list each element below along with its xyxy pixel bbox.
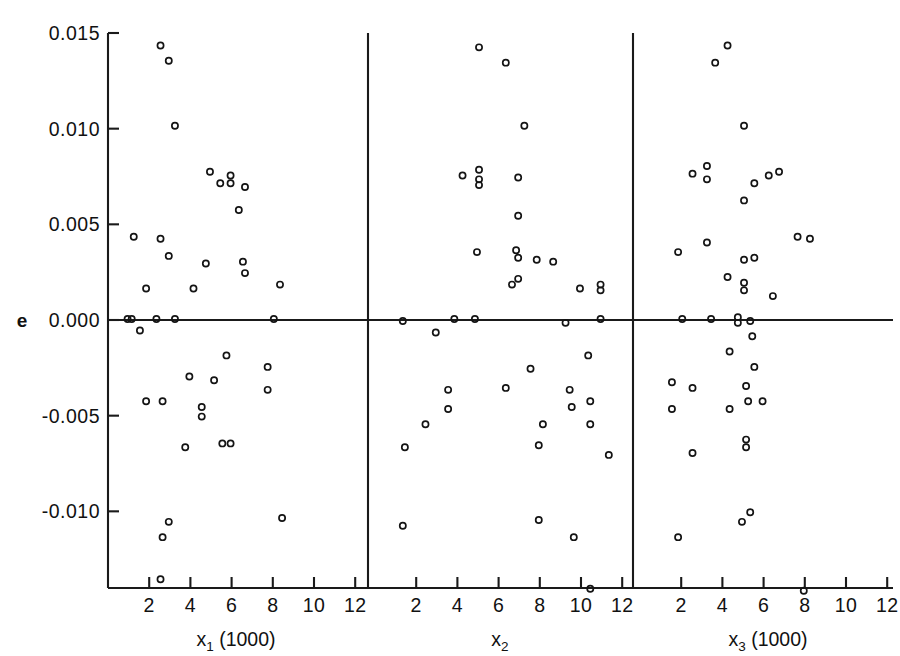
data-point: [445, 387, 451, 393]
data-point: [182, 444, 188, 450]
data-point: [741, 257, 747, 263]
data-point: [242, 184, 248, 190]
data-point: [739, 519, 745, 525]
data-point: [211, 377, 217, 383]
data-point: [577, 285, 583, 291]
data-point: [675, 249, 681, 255]
data-point: [606, 452, 612, 458]
data-point: [751, 364, 757, 370]
data-point: [540, 421, 546, 427]
x-tick-label: 8: [799, 594, 810, 616]
data-point: [669, 406, 675, 412]
data-point: [704, 163, 710, 169]
x-tick-label: 4: [185, 594, 196, 616]
y-axis-title: e: [17, 310, 28, 331]
x-tick-label: 12: [611, 594, 634, 616]
data-point: [585, 352, 591, 358]
x-tick-label: 2: [676, 594, 687, 616]
data-point: [166, 519, 172, 525]
x-tick-label: 8: [534, 594, 545, 616]
y-tick-label: 0.010: [49, 118, 100, 140]
data-point: [166, 253, 172, 259]
data-point: [219, 440, 225, 446]
data-point: [476, 44, 482, 50]
x-tick-label: 6: [226, 594, 237, 616]
data-point: [770, 293, 776, 299]
data-point: [476, 167, 482, 173]
data-point: [751, 180, 757, 186]
data-point: [745, 398, 751, 404]
data-point: [277, 282, 283, 288]
x-tick-label: 2: [411, 594, 422, 616]
data-point: [400, 523, 406, 529]
data-point: [503, 385, 509, 391]
data-point: [402, 444, 408, 450]
data-point: [536, 442, 542, 448]
x-axis: [108, 577, 893, 588]
y-tick-label: 0.015: [49, 22, 100, 44]
x-axis-tick-labels: 246810122468101224681012: [144, 594, 899, 616]
data-point: [776, 169, 782, 175]
data-point: [749, 333, 755, 339]
data-point: [766, 172, 772, 178]
data-point: [704, 176, 710, 182]
data-point: [433, 329, 439, 335]
residual-scatter-figure: 0.0150.0100.0050.000-0.005-0.010 e 24681…: [0, 0, 900, 656]
data-point: [724, 42, 730, 48]
x-tick-label: 4: [717, 594, 728, 616]
data-point: [515, 213, 521, 219]
x-tick-label: 10: [570, 594, 593, 616]
panel-axis-title-x2: x2: [491, 628, 508, 654]
data-point: [689, 450, 695, 456]
data-point: [203, 260, 209, 266]
data-point: [587, 398, 593, 404]
data-point: [190, 285, 196, 291]
data-point: [279, 515, 285, 521]
data-point: [727, 348, 733, 354]
data-point: [445, 406, 451, 412]
data-point: [515, 276, 521, 282]
data-point: [265, 364, 271, 370]
data-point: [422, 421, 428, 427]
data-point: [227, 180, 233, 186]
data-point: [217, 180, 223, 186]
data-point: [675, 534, 681, 540]
data-point: [157, 42, 163, 48]
data-point: [689, 385, 695, 391]
data-point: [587, 421, 593, 427]
data-point: [515, 255, 521, 261]
data-point: [741, 280, 747, 286]
data-point: [521, 123, 527, 129]
data-point: [747, 509, 753, 515]
x-tick-label: 12: [344, 594, 367, 616]
data-point: [741, 197, 747, 203]
data-point: [571, 534, 577, 540]
data-point: [712, 60, 718, 66]
data-point: [794, 234, 800, 240]
data-point: [157, 236, 163, 242]
data-point: [534, 257, 540, 263]
data-point: [459, 172, 465, 178]
x-tick-label: 6: [493, 594, 504, 616]
data-point: [569, 404, 575, 410]
y-tick-label: -0.005: [42, 405, 100, 427]
data-point: [172, 123, 178, 129]
data-point: [741, 287, 747, 293]
data-point: [143, 398, 149, 404]
data-point: [157, 576, 163, 582]
data-point: [242, 270, 248, 276]
plot-canvas: 0.0150.0100.0050.000-0.005-0.010 e 24681…: [0, 0, 900, 656]
data-point: [515, 174, 521, 180]
data-point: [759, 398, 765, 404]
data-point: [137, 327, 143, 333]
data-point: [689, 171, 695, 177]
y-axis-tick-labels: 0.0150.0100.0050.000-0.005-0.010: [42, 22, 100, 522]
data-point: [743, 383, 749, 389]
data-point: [199, 414, 205, 420]
data-point: [727, 406, 733, 412]
data-point: [199, 404, 205, 410]
data-point: [240, 259, 246, 265]
data-point: [159, 534, 165, 540]
data-point: [743, 436, 749, 442]
data-point: [724, 274, 730, 280]
